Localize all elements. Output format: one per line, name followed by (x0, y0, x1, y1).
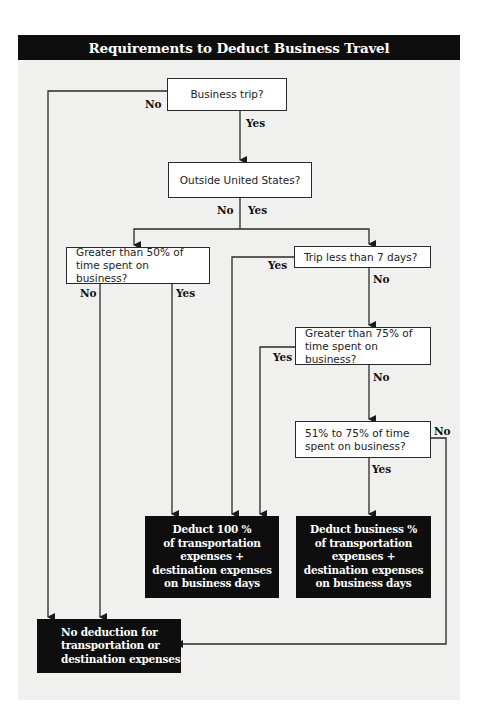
label-lt7days-yes: Yes (268, 259, 287, 271)
label-gt75-yes: Yes (273, 351, 292, 363)
result-line: expenses + (152, 550, 271, 564)
result-line: transportation or (61, 639, 180, 653)
result-line: on business days (152, 577, 271, 591)
question-greater-than-75: Greater than 75% of time spent on busine… (295, 327, 431, 365)
result-line: No deduction for (61, 626, 180, 640)
result-line: destination expenses (152, 564, 271, 578)
question-text-line2: time spent on business? (76, 259, 200, 285)
question-text-line1: 51% to 75% of time (305, 427, 409, 440)
result-line: Deduct business % (304, 523, 423, 537)
label-business-trip-no: No (145, 98, 162, 110)
question-greater-than-50: Greater than 50% of time spent on busine… (66, 247, 210, 284)
question-text: Outside United States? (180, 174, 301, 187)
question-51-to-75: 51% to 75% of time spent on business? (295, 421, 431, 458)
label-outside-us-yes: Yes (248, 204, 267, 216)
question-text-line2: spent on business? (305, 440, 409, 453)
result-line: expenses + (304, 550, 423, 564)
label-51to75-no: No (434, 425, 451, 437)
result-no-deduction: No deduction for transportation or desti… (37, 619, 181, 673)
label-gt50-yes: Yes (176, 287, 195, 299)
question-text-line1: Greater than 75% of (305, 327, 421, 340)
question-business-trip: Business trip? (167, 78, 287, 111)
question-text: Trip less than 7 days? (304, 251, 417, 264)
label-business-trip-yes: Yes (246, 117, 265, 129)
result-line: on business days (304, 577, 423, 591)
label-gt50-no: No (80, 287, 97, 299)
question-trip-less-than-7-days: Trip less than 7 days? (294, 246, 431, 268)
question-text: Business trip? (190, 88, 263, 101)
question-text-line1: Greater than 50% of (76, 246, 200, 259)
question-text-line2: time spent on business? (305, 340, 421, 366)
result-line: destination expenses (304, 564, 423, 578)
result-deduct-100: Deduct 100 % of transportation expenses … (145, 516, 279, 598)
label-51to75-yes: Yes (372, 463, 391, 475)
result-line: destination expenses (61, 653, 180, 667)
label-gt75-no: No (373, 371, 390, 383)
question-outside-us: Outside United States? (168, 162, 312, 198)
label-outside-us-no: No (217, 204, 234, 216)
result-line: Deduct 100 % (152, 523, 271, 537)
result-line: of transportation (304, 537, 423, 551)
result-deduct-business-pct: Deduct business % of transportation expe… (296, 516, 431, 598)
label-lt7days-no: No (373, 273, 390, 285)
result-line: of transportation (152, 537, 271, 551)
